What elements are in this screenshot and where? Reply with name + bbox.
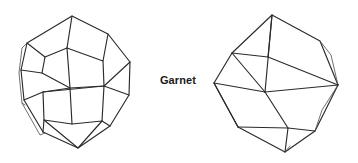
crystal-rhombic-dodecahedron xyxy=(190,0,358,163)
garnet-crystal-figure: Garnet xyxy=(0,0,358,163)
crystal-trapezohedron xyxy=(0,0,150,163)
